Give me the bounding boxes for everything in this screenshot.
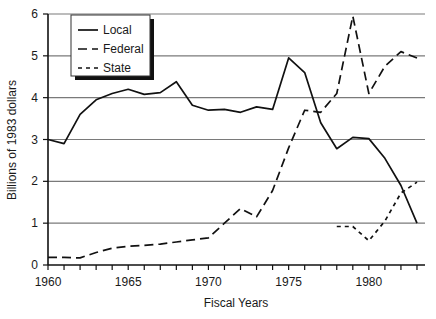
chart-container: 0123456 19601965197019751980 Billions of… — [0, 0, 436, 319]
legend-label-state: State — [103, 61, 131, 75]
line-chart: 0123456 19601965197019751980 Billions of… — [0, 0, 436, 319]
y-axis-tick-label: 0 — [31, 258, 38, 272]
x-axis-tick-label: 1965 — [115, 275, 142, 289]
y-axis-title: Billions of 1983 dollars — [5, 80, 19, 200]
y-axis-tick-label: 3 — [31, 133, 38, 147]
y-axis-tick-label: 5 — [31, 49, 38, 63]
x-axis-tick-label: 1980 — [355, 275, 382, 289]
chart-background — [0, 0, 436, 319]
y-axis-tick-label: 6 — [31, 7, 38, 21]
y-axis-tick-label: 2 — [31, 174, 38, 188]
legend-label-federal: Federal — [103, 42, 144, 56]
y-axis-tick-label: 1 — [31, 216, 38, 230]
chart-legend: LocalFederalState — [71, 15, 154, 80]
x-axis-tick-label: 1975 — [275, 275, 302, 289]
y-axis-tick-label: 4 — [31, 91, 38, 105]
x-axis-tick-label: 1960 — [35, 275, 62, 289]
x-axis-title: Fiscal Years — [204, 296, 269, 310]
x-axis-tick-label: 1970 — [195, 275, 222, 289]
legend-label-local: Local — [103, 23, 132, 37]
